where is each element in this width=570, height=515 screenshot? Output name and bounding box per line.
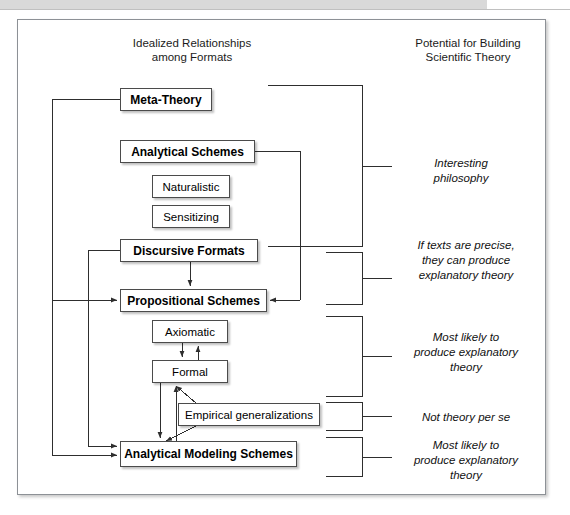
node-meta-theory: Meta-Theory — [120, 88, 212, 111]
note-not-theory: Not theory per se — [386, 410, 546, 425]
arrow-empirical-to-formal — [176, 386, 196, 403]
heading-idealized-relationships: Idealized Relationships among Formats — [104, 36, 280, 64]
line-discursive-left-rail — [88, 250, 120, 446]
node-propositional-schemes: Propositional Schemes — [120, 289, 267, 312]
node-sensitizing: Sensitizing — [152, 205, 230, 228]
node-analytical-modeling-schemes: Analytical Modeling Schemes — [120, 441, 297, 467]
bracket-most-likely-1 — [326, 316, 362, 396]
note-interesting-philosophy: Interesting philosophy — [386, 156, 536, 186]
node-formal: Formal — [152, 360, 228, 383]
heading-potential-for-building: Potential for Building Scientific Theory — [392, 36, 544, 64]
node-discursive-formats: Discursive Formats — [120, 239, 258, 262]
note-most-likely-1: Most likely to produce explanatory theor… — [386, 330, 546, 375]
line-analytical-to-propositional — [255, 151, 300, 300]
note-most-likely-2: Most likely to produce explanatory theor… — [386, 438, 546, 483]
bracket-most-likely-2 — [326, 437, 362, 476]
node-empirical-generalizations: Empirical generalizations — [178, 403, 320, 426]
bracket-not-theory — [326, 402, 362, 430]
bracket-texts-precise — [326, 252, 362, 304]
arrow-empirical-to-modeling — [166, 426, 196, 441]
figure-page: Idealized Relationships among Formats Po… — [0, 0, 570, 515]
bracket-interesting-philosophy — [268, 85, 362, 246]
node-naturalistic: Naturalistic — [152, 175, 230, 198]
note-texts-precise: If texts are precise, they can produce e… — [386, 238, 546, 283]
node-analytical-schemes: Analytical Schemes — [120, 140, 255, 163]
node-axiomatic: Axiomatic — [152, 320, 228, 343]
line-meta-theory-left-rail — [52, 99, 120, 455]
